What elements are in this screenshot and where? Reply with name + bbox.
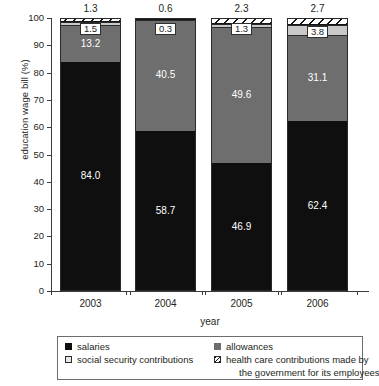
black-square-swatch-icon bbox=[65, 343, 72, 350]
y-axis-tick-label: 70 bbox=[0, 96, 44, 104]
bar-segment-health-2003[interactable] bbox=[60, 18, 121, 22]
y-axis-tick-label: 60 bbox=[0, 123, 44, 131]
bar-2003[interactable] bbox=[60, 18, 121, 291]
x-axis-tick-mark bbox=[130, 291, 131, 295]
y-axis-tick-label: 10 bbox=[0, 260, 44, 268]
x-axis-tick-label-2004: 2004 bbox=[135, 298, 196, 309]
legend-label-line2: the government for its employees bbox=[239, 367, 379, 378]
x-axis-tick-mark bbox=[278, 291, 279, 295]
bar-value-label-health-2005: 2.3 bbox=[211, 4, 272, 14]
bar-value-label-social-2005: 1.3 bbox=[211, 23, 272, 35]
y-axis-tick-label: 90 bbox=[0, 41, 44, 49]
y-axis-tick-label: 50 bbox=[0, 151, 44, 159]
bar-value-label-salaries-2006: 62.4 bbox=[287, 201, 348, 211]
y-axis-tick-label: 30 bbox=[0, 205, 44, 213]
gray-square-swatch-icon bbox=[214, 343, 221, 350]
x-axis-tick-label-2006: 2006 bbox=[287, 298, 348, 309]
bar-value-label-social-2006: 3.8 bbox=[287, 26, 348, 38]
hatched-square-swatch-icon bbox=[214, 356, 221, 363]
y-axis-tick-mark bbox=[47, 155, 51, 156]
y-axis-tick-mark bbox=[47, 236, 51, 237]
bar-value-label-social-2003: 1.5 bbox=[60, 23, 121, 35]
legend-label: social security contributions bbox=[77, 354, 193, 365]
y-axis-tick-mark bbox=[47, 100, 51, 101]
y-axis-tick-mark bbox=[47, 73, 51, 74]
y-axis-line bbox=[51, 18, 52, 292]
y-axis-tick-mark bbox=[47, 127, 51, 128]
light-square-swatch-icon bbox=[65, 356, 72, 363]
bar-value-label-allowances-2004: 40.5 bbox=[135, 70, 196, 80]
bar-value-label-allowances-2003: 13.2 bbox=[60, 39, 121, 49]
bar-2006[interactable] bbox=[287, 18, 348, 291]
bar-segment-health-2004[interactable] bbox=[135, 18, 196, 20]
bar-value-label-social-2004: 0.3 bbox=[135, 23, 196, 35]
y-axis-tick-label: 80 bbox=[0, 69, 44, 77]
bar-segment-health-2006[interactable] bbox=[287, 18, 348, 25]
x-axis-tick-mark bbox=[51, 291, 52, 295]
y-axis-tick-label: 40 bbox=[0, 178, 44, 186]
y-axis-tick-label: 100 bbox=[0, 14, 44, 22]
legend-label: allowances bbox=[226, 341, 273, 352]
y-axis-tick-mark bbox=[47, 209, 51, 210]
bar-value-label-health-2004: 0.6 bbox=[135, 4, 196, 14]
bar-value-label-health-2003: 1.3 bbox=[60, 4, 121, 14]
x-axis-tick-label-2003: 2003 bbox=[60, 298, 121, 309]
x-axis-title: year bbox=[51, 316, 369, 327]
y-axis-title: education wage bill (%) bbox=[19, 30, 30, 190]
bar-2005[interactable] bbox=[211, 18, 272, 291]
y-axis-tick-mark bbox=[47, 182, 51, 183]
y-axis-tick-label: 0 bbox=[0, 287, 44, 295]
legend-label: salaries bbox=[77, 341, 110, 352]
x-axis-tick-mark bbox=[202, 291, 203, 295]
bar-value-label-allowances-2006: 31.1 bbox=[287, 73, 348, 83]
legend-label: health care contributions made by bbox=[226, 354, 369, 365]
chart-legend: salaries social security contributions a… bbox=[57, 336, 363, 380]
x-axis-tick-mark bbox=[281, 291, 282, 295]
bar-value-label-allowances-2005: 49.6 bbox=[211, 90, 272, 100]
x-axis-tick-label-2005: 2005 bbox=[211, 298, 272, 309]
bar-value-label-salaries-2003: 84.0 bbox=[60, 171, 121, 181]
y-axis-tick-mark bbox=[47, 264, 51, 265]
bar-value-label-salaries-2004: 58.7 bbox=[135, 206, 196, 216]
y-axis-tick-mark bbox=[47, 18, 51, 19]
x-axis-line bbox=[51, 291, 369, 292]
bar-value-label-health-2006: 2.7 bbox=[287, 4, 348, 14]
bar-value-label-salaries-2005: 46.9 bbox=[211, 222, 272, 232]
x-axis-tick-mark bbox=[126, 291, 127, 295]
bar-2004[interactable] bbox=[135, 18, 196, 291]
y-axis-tick-mark bbox=[47, 45, 51, 46]
x-axis-tick-mark bbox=[357, 291, 358, 295]
x-axis-tick-mark bbox=[205, 291, 206, 295]
y-axis-tick-label: 20 bbox=[0, 232, 44, 240]
